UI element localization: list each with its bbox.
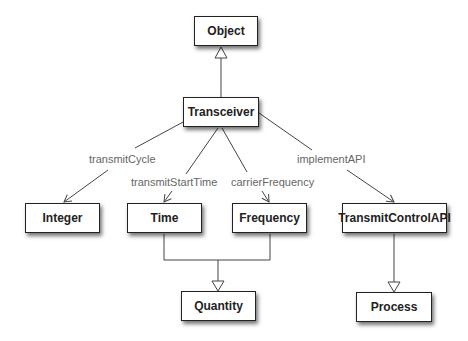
association-line-carrierfrequency-a <box>222 128 247 172</box>
class-process[interactable]: Process <box>356 292 432 322</box>
class-time[interactable]: Time <box>127 203 202 233</box>
class-quantity[interactable]: Quantity <box>181 291 256 321</box>
class-time-label: Time <box>151 211 179 225</box>
association-line-transmitstarttime-b <box>164 191 172 202</box>
class-transceiver[interactable]: Transceiver <box>183 97 259 127</box>
association-line-implementapi-b <box>347 170 394 202</box>
class-frequency[interactable]: Frequency <box>232 203 307 233</box>
hollow-triangle-icon <box>212 281 224 291</box>
hollow-triangle-icon <box>388 282 400 292</box>
class-transceiver-label: Transceiver <box>188 105 255 119</box>
hollow-triangle-icon <box>215 47 227 58</box>
class-frequency-label: Frequency <box>239 211 300 225</box>
association-line-carrierfrequency-b <box>262 191 269 202</box>
association-line-transmitcycle-b <box>64 170 108 202</box>
edge-label-transmitcycle: transmitCycle <box>88 153 157 165</box>
edge-label-implementapi: implementAPI <box>296 153 366 165</box>
generalization-bus-time-frequency <box>164 234 270 260</box>
class-integer[interactable]: Integer <box>25 203 100 233</box>
diagram-connectors <box>0 0 468 341</box>
association-line-transmitstarttime-a <box>186 128 218 174</box>
class-object[interactable]: Object <box>194 16 258 46</box>
class-integer-label: Integer <box>42 211 82 225</box>
class-object-label: Object <box>207 24 244 38</box>
class-quantity-label: Quantity <box>194 299 243 313</box>
association-line-implementapi-a <box>259 113 312 150</box>
class-transmitcontrolapi[interactable]: TransmitControlAPI <box>342 203 447 233</box>
association-line-transmitcycle-a <box>135 121 185 148</box>
class-process-label: Process <box>371 300 418 314</box>
class-transmitcontrolapi-label: TransmitControlAPI <box>338 211 451 225</box>
edge-label-carrierfrequency: carrierFrequency <box>230 176 315 188</box>
edge-label-transmitstarttime: transmitStartTime <box>130 176 218 188</box>
